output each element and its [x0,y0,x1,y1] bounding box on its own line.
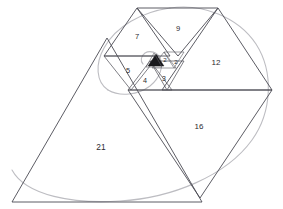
triangle-labels: 21 16 12 9 7 5 4 3 2 2 [96,24,221,152]
triangle-16 [128,90,272,198]
triangle-label-3: 3 [162,75,166,82]
triangle-label-21: 21 [96,142,106,152]
triangle-label-2b: 2 [174,58,178,65]
triangle-12 [162,8,272,90]
triangle-spiral-canvas: 21 16 12 9 7 5 4 3 2 2 [0,0,283,209]
triangle-outlines [12,8,272,202]
triangle-label-16: 16 [195,122,204,131]
spiral-arc-outer [12,7,268,202]
triangle-spiral-figure: 21 16 12 9 7 5 4 3 2 2 [0,0,283,209]
triangle-label-9: 9 [176,24,180,33]
triangle-label-12: 12 [212,58,221,67]
triangle-label-7: 7 [135,32,139,41]
triangle-label-5: 5 [126,66,130,75]
triangle-label-2a: 2 [163,56,167,63]
triangle-label-4: 4 [143,76,147,85]
logarithmic-spiral [12,7,268,202]
